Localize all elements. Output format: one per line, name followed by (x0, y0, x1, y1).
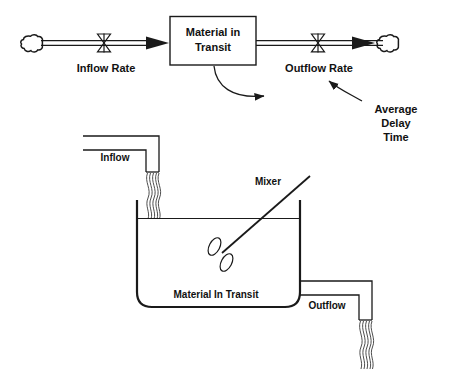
diagram-canvas: Inflow Rate Material in Transit Outflow … (0, 0, 450, 384)
link-stock-to-outflow-rate (214, 66, 264, 96)
tank-inflow-label: Inflow (101, 152, 130, 163)
cloud-icon-sink (377, 35, 399, 52)
average-delay-time-label-line3: Time (383, 131, 408, 143)
outflow-arrowhead (352, 37, 375, 50)
outflow-rate-label: Outflow Rate (285, 62, 353, 74)
outflow-valve-icon (312, 34, 325, 53)
inflow-valve-icon (98, 34, 111, 53)
link-delay-to-outflow-rate (329, 81, 362, 101)
average-delay-time-label-line1: Average (374, 103, 417, 115)
inflow-arrowhead (146, 37, 169, 50)
cloud-icon-source (21, 35, 43, 52)
stock-box-label-line1: Material in (186, 26, 241, 38)
inflow-liquid-stream (147, 173, 161, 219)
stock-box-label-line2: Transit (195, 41, 231, 53)
mixer-label: Mixer (255, 176, 281, 187)
material-in-transit-diagram: Inflow Rate Material in Transit Outflow … (0, 0, 450, 384)
outflow-liquid-stream (360, 321, 374, 369)
tank-contents-label: Material In Transit (173, 289, 259, 300)
inflow-rate-label: Inflow Rate (77, 62, 136, 74)
average-delay-time-label-line2: Delay (381, 117, 411, 129)
mixer-impeller-icon (205, 236, 235, 274)
inflow-pipe (41, 41, 157, 46)
mixer-shaft (222, 176, 310, 253)
tank-outflow-label: Outflow (308, 300, 345, 311)
